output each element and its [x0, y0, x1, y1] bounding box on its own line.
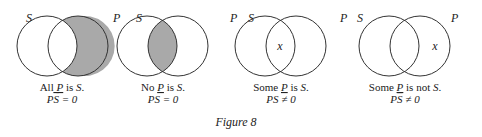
venn-diagram-some-p-is-s: S P x Some P is S. PS ≠ 0: [235, 11, 348, 105]
label-s: S: [26, 11, 32, 25]
statement-text: No P is S.: [141, 81, 185, 93]
label-s: S: [357, 11, 363, 25]
venn-diagram-some-p-is-not-s: S P x Some P is not S. PS ≠ 0: [357, 11, 459, 105]
equation-text: PS ≠ 0: [265, 93, 296, 105]
label-p: P: [450, 11, 459, 25]
statement-text: Some P is not S.: [369, 81, 442, 93]
label-p: P: [112, 11, 121, 25]
equation-text: PS ≠ 0: [389, 93, 420, 105]
statement-text: All P is S.: [40, 81, 85, 93]
venn-diagram-all-p-is-s: S P All P is S. PS = 0: [17, 11, 121, 105]
label-s: S: [248, 11, 254, 25]
x-mark: x: [431, 39, 438, 53]
x-mark: x: [276, 39, 283, 53]
label-p: P: [339, 11, 348, 25]
circle-p: [266, 16, 326, 76]
label-p: P: [229, 11, 238, 25]
equation-text: PS = 0: [46, 93, 78, 105]
figure-caption: Figure 8: [214, 115, 256, 129]
label-s: S: [136, 11, 142, 25]
equation-text: PS = 0: [147, 93, 179, 105]
circle-s: [359, 16, 419, 76]
statement-text: Some P is S.: [253, 81, 309, 93]
venn-diagram-no-p-is-s: S P No P is S. PS = 0: [117, 11, 238, 105]
circle-s: [235, 16, 295, 76]
circle-p: [390, 16, 450, 76]
venn-figure: S P All P is S. PS = 0 S P No P is S. PS…: [0, 0, 482, 137]
